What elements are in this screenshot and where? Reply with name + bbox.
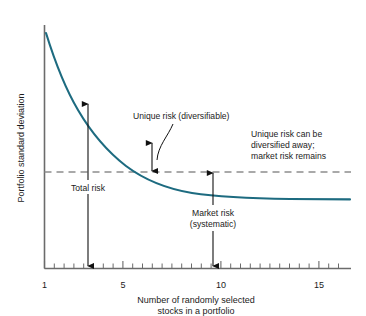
note-line-1: Unique risk can be: [251, 129, 322, 139]
risk-diversification-chart: 1 5 10 15 Number of randomly selected st…: [0, 0, 366, 316]
market-risk-label-line1: Market risk: [192, 208, 235, 218]
x-axis-ticks: [45, 261, 339, 269]
x-tick-label-10: 10: [216, 280, 226, 290]
x-axis-title-line1: Number of randomly selected: [137, 295, 255, 305]
x-tick-label-1: 1: [42, 280, 47, 290]
market-risk-annotation: Market risk (systematic): [190, 173, 236, 266]
x-tick-label-15: 15: [314, 280, 324, 290]
total-risk-label-text: Total risk: [71, 183, 106, 193]
market-risk-label-line2: (systematic): [190, 219, 236, 229]
unique-risk-label: Unique risk (diversifiable): [133, 111, 230, 121]
unique-risk-leader-line: [157, 124, 173, 160]
x-tick-label-5: 5: [120, 280, 125, 290]
note-line-2: diversified away;: [251, 140, 315, 150]
chart-canvas: 1 5 10 15 Number of randomly selected st…: [0, 0, 366, 316]
note-line-3: market risk remains: [251, 151, 326, 161]
x-axis-title-line2: stocks in a portfolio: [157, 306, 234, 316]
unique-risk-annotation: Unique risk (diversifiable): [133, 111, 230, 171]
y-axis-title: Portfolio standard deviation: [16, 93, 26, 202]
unique-risk-note: Unique risk can be diversified away; mar…: [251, 129, 326, 161]
